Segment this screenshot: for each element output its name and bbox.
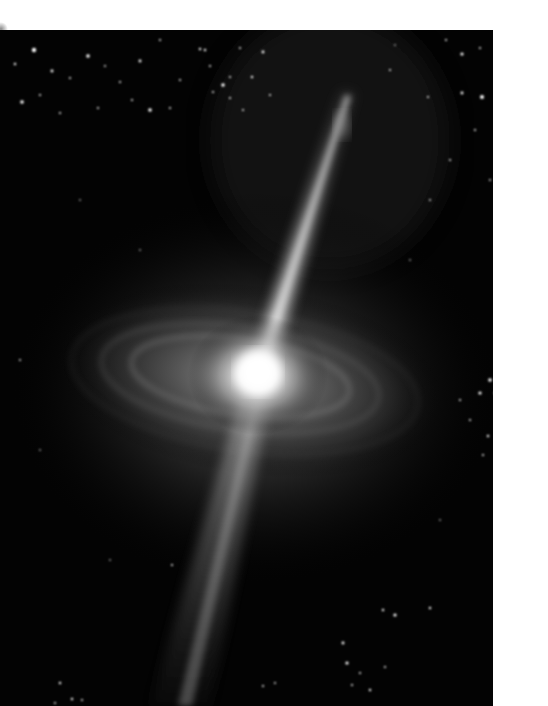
- page: [0, 0, 548, 706]
- galaxy-photo: [0, 30, 493, 706]
- galaxy-illustration: [0, 30, 493, 706]
